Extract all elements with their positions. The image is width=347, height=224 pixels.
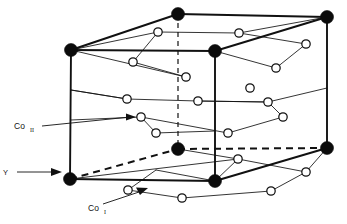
label-co1-subscript: I bbox=[104, 209, 106, 215]
edge-bottom-front bbox=[70, 179, 215, 181]
bond-upper-right bbox=[239, 33, 306, 44]
label-co1-base: Co bbox=[88, 203, 99, 213]
text-labels: Co II Y Co I bbox=[3, 121, 106, 215]
atom-filled-top-back-right bbox=[321, 11, 334, 24]
bond-right-down bbox=[276, 44, 306, 68]
atom-filled-top-front-left bbox=[65, 44, 78, 57]
atom-open-o8 bbox=[123, 95, 131, 103]
atom-open-o15 bbox=[234, 155, 242, 163]
bond-lower-mid-to-left bbox=[128, 190, 182, 198]
crystal-structure-diagram: Co II Y Co I bbox=[0, 0, 347, 224]
arrow-head-co2 bbox=[126, 114, 136, 121]
atom-filled-bottom-front-right bbox=[209, 175, 222, 188]
atom-open-o6 bbox=[182, 73, 190, 81]
bond-mid-left-edge bbox=[71, 90, 127, 99]
atom-open-o19 bbox=[178, 194, 186, 202]
bond-path-upper-back bbox=[71, 17, 327, 50]
atom-filled-bottom-back-left bbox=[172, 143, 185, 156]
bond-network-lower bbox=[70, 148, 327, 198]
atom-filled-top-back-left bbox=[172, 8, 185, 21]
bond-lower-right-down bbox=[271, 172, 306, 191]
bond-mid-dangle-to-center bbox=[156, 131, 215, 133]
edge-vertical-front-left bbox=[70, 50, 71, 179]
atom-open-o13 bbox=[152, 129, 160, 137]
label-y-axis: Y bbox=[3, 168, 8, 177]
atom-open-o9 bbox=[194, 97, 202, 105]
bond-mid-inner bbox=[198, 101, 268, 102]
atom-open-o3 bbox=[129, 58, 137, 66]
bond-right-to-front bbox=[215, 51, 276, 68]
bond-lower-left-to-front bbox=[156, 170, 215, 181]
atom-open-o4 bbox=[302, 40, 310, 48]
bond-network-upper bbox=[71, 17, 327, 77]
leader-line-co2 bbox=[42, 117, 130, 126]
atom-filled-bottom-back-right bbox=[321, 142, 334, 155]
arrow-head-y-axis bbox=[51, 168, 62, 176]
atom-open-o10 bbox=[264, 98, 272, 106]
crystal-structure-figure: Co II Y Co I bbox=[0, 0, 347, 224]
atom-open-o16 bbox=[302, 168, 310, 176]
atom-open-o7 bbox=[246, 84, 254, 92]
edge-bottom-left-diag-hidden bbox=[70, 149, 178, 179]
label-co2-subscript: II bbox=[30, 127, 34, 133]
edge-bottom-back-hidden bbox=[178, 148, 327, 149]
bond-mid-right-to-low bbox=[228, 117, 283, 133]
atom-filled-bottom-front-left bbox=[64, 173, 77, 186]
edge-top-back bbox=[178, 14, 327, 17]
bond-lower-backleft bbox=[178, 149, 238, 159]
bond-network-middle bbox=[71, 88, 327, 133]
edge-top-front bbox=[71, 50, 215, 51]
label-co2-base: Co bbox=[14, 121, 25, 131]
atom-filled-top-front-right bbox=[209, 45, 222, 58]
atom-open-o18 bbox=[267, 187, 275, 195]
atom-open-o17 bbox=[124, 186, 132, 194]
atom-open-o12 bbox=[279, 113, 287, 121]
atom-open-o1 bbox=[154, 28, 162, 36]
atom-open-o2 bbox=[235, 29, 243, 37]
bond-lower-right-to-mid bbox=[182, 191, 271, 198]
atom-open-o5 bbox=[272, 64, 280, 72]
atom-open-o14 bbox=[224, 129, 232, 137]
atom-open-o11 bbox=[137, 113, 145, 121]
leader-line-co1 bbox=[103, 191, 142, 204]
